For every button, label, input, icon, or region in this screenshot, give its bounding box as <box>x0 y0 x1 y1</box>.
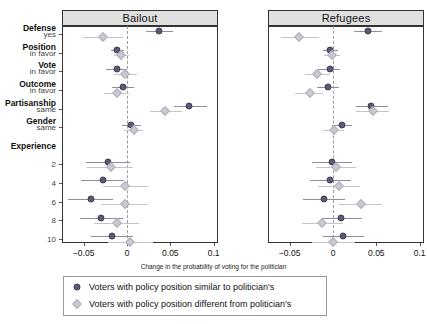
y-axis-tick <box>59 220 62 221</box>
x-axis-tick-label: 0 <box>125 248 130 258</box>
circle-icon <box>74 284 81 291</box>
forest-plot-figure: BailoutRefugeesDefenseyesPositionin favo… <box>0 0 427 324</box>
data-point <box>321 196 328 203</box>
x-axis-tick-label: 0.05 <box>162 248 179 258</box>
data-point <box>327 177 334 184</box>
data-point <box>364 28 371 35</box>
y-axis-tick <box>59 202 62 203</box>
y-axis-tick <box>59 127 62 128</box>
panel-title: Bailout <box>122 12 157 24</box>
panel-plot-area-refugees <box>268 26 424 243</box>
x-axis-tick-label: −0.05 <box>279 248 301 258</box>
y-axis-sub-label: 10 <box>0 235 56 244</box>
y-axis-tick <box>59 239 62 240</box>
y-axis-sub-label: in favor <box>0 49 56 58</box>
data-point <box>119 84 126 91</box>
y-axis-sub-label: in favor <box>0 86 56 95</box>
data-point <box>324 84 331 91</box>
data-point <box>109 233 116 240</box>
y-axis-tick <box>59 90 62 91</box>
legend-item: Voters with policy position similar to p… <box>70 282 274 292</box>
data-point <box>186 102 193 109</box>
y-axis-tick <box>59 164 62 165</box>
data-point <box>326 65 333 72</box>
y-axis-sub-label: 6 <box>0 198 56 207</box>
data-point <box>113 65 120 72</box>
x-axis-tick <box>170 243 171 246</box>
legend-marker-circle <box>70 282 84 292</box>
y-axis-group-label: Experience <box>0 142 56 151</box>
x-axis-tick-label: 0.05 <box>368 248 385 258</box>
data-point <box>87 196 94 203</box>
y-axis-tick <box>59 71 62 72</box>
y-axis-sub-label: in favor <box>0 67 56 76</box>
panel-strip-bailout: Bailout <box>62 10 218 26</box>
x-axis-tick <box>376 243 377 246</box>
y-axis-tick <box>59 53 62 54</box>
x-axis-tick <box>84 243 85 246</box>
y-axis-tick <box>59 34 62 35</box>
x-axis-tick <box>214 243 215 246</box>
y-axis-tick <box>59 183 62 184</box>
x-axis-tick-label: 0 <box>331 248 336 258</box>
y-axis-sub-label: 4 <box>0 179 56 188</box>
y-axis-sub-label: 2 <box>0 160 56 169</box>
y-axis-sub-label: same <box>0 105 56 114</box>
zero-reference-line <box>127 26 128 243</box>
legend-item: Voters with policy position different fr… <box>70 299 291 309</box>
y-axis-tick <box>59 109 62 110</box>
x-axis-tick <box>420 243 421 246</box>
x-axis-tick <box>290 243 291 246</box>
data-point <box>156 28 163 35</box>
y-axis-sub-label: yes <box>0 30 56 39</box>
panel-strip-refugees: Refugees <box>268 10 424 26</box>
x-axis-tick-label: 0.1 <box>208 248 220 258</box>
y-axis-sub-label: 8 <box>0 216 56 225</box>
data-point <box>340 233 347 240</box>
data-point <box>98 214 105 221</box>
legend-label: Voters with policy position similar to p… <box>89 282 274 292</box>
data-point <box>337 214 344 221</box>
panel-title: Refugees <box>322 12 371 24</box>
legend-marker-diamond <box>70 299 84 309</box>
x-axis-tick-label: −0.05 <box>73 248 95 258</box>
diamond-icon <box>72 299 82 309</box>
data-point <box>338 121 345 128</box>
legend-label: Voters with policy position different fr… <box>89 299 291 309</box>
y-axis-sub-label: same <box>0 123 56 132</box>
x-axis-tick-label: 0.1 <box>414 248 426 258</box>
x-axis-title: Change in the probability of voting for … <box>0 263 427 270</box>
data-point <box>99 177 106 184</box>
panel-plot-area-bailout <box>62 26 218 243</box>
